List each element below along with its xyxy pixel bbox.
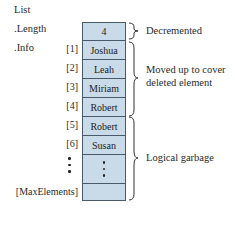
- annotation-moved-line1: Moved up to cover: [146, 64, 226, 75]
- annotation-garbage: Logical garbage: [146, 152, 214, 163]
- annotation-moved-line2: deleted element: [146, 77, 212, 88]
- brace-garbage-icon: [129, 117, 138, 200]
- annotation-decremented: Decremented: [146, 25, 202, 36]
- brace-moved-icon: [129, 42, 138, 116]
- brace-decremented-icon: [129, 23, 138, 39]
